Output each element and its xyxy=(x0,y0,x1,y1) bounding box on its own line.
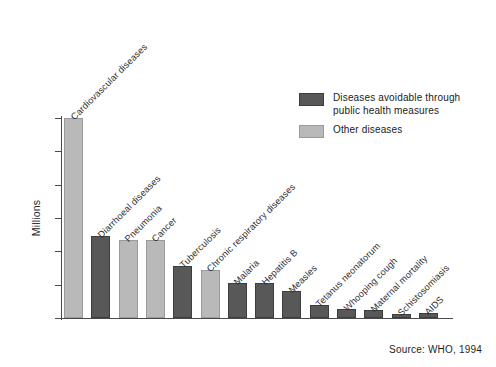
y-tick-label-wrap: 12 xyxy=(0,118,61,119)
legend-swatch-avoidable xyxy=(299,93,324,106)
bar xyxy=(91,236,110,318)
legend-item: Other diseases xyxy=(299,124,488,138)
legend-label: Other diseases xyxy=(333,124,402,137)
y-axis-title: Millions xyxy=(30,178,42,258)
bar xyxy=(228,283,247,318)
bar xyxy=(173,266,192,318)
legend-item: Diseases avoidable through public health… xyxy=(299,92,488,117)
y-tick-label-wrap: 2 xyxy=(0,285,61,286)
y-tick-label-wrap: 10 xyxy=(0,151,61,152)
legend-label: Diseases avoidable through public health… xyxy=(333,92,488,117)
legend-swatch-other xyxy=(299,125,324,138)
bar xyxy=(64,118,83,318)
chart-legend: Diseases avoidable through public health… xyxy=(299,92,488,145)
bar xyxy=(146,240,165,318)
category-label: Cardiovascular diseases xyxy=(68,42,148,122)
y-tick-label-wrap: 0 xyxy=(0,318,61,319)
bar xyxy=(201,270,220,318)
source-note: Source: WHO, 1994 xyxy=(389,344,482,355)
bar xyxy=(282,291,301,318)
bar-chart: 024681012 Millions Cardiovascular diseas… xyxy=(0,0,496,367)
bar xyxy=(119,240,138,318)
bar xyxy=(255,283,274,318)
x-axis-line xyxy=(61,318,453,319)
